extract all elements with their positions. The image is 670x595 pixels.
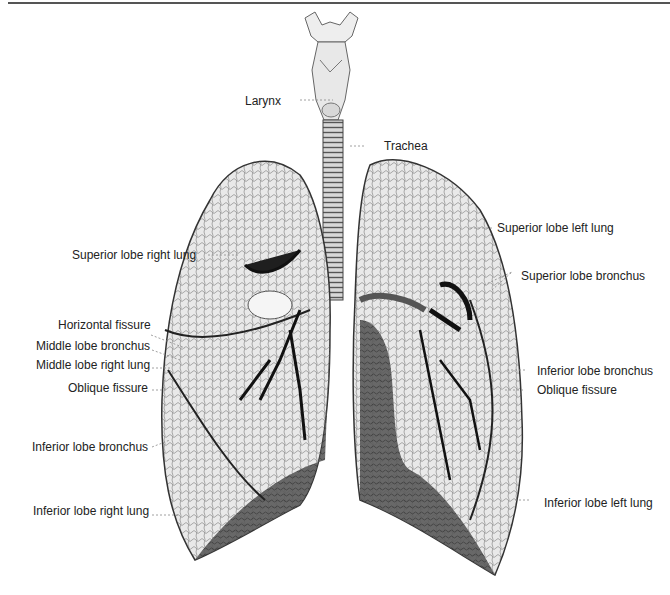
label-inferior-lobe-bronchus-right-side: Inferior lobe bronchus [537, 364, 653, 378]
label-middle-lobe-bronchus: Middle lobe bronchus [36, 339, 150, 353]
label-superior-lobe-right-lung: Superior lobe right lung [72, 248, 196, 262]
label-oblique-fissure-left: Oblique fissure [537, 383, 617, 397]
right-lung-drawing [162, 161, 330, 560]
label-trachea: Trachea [384, 139, 428, 153]
label-superior-lobe-bronchus: Superior lobe bronchus [521, 269, 645, 283]
label-oblique-fissure-right: Oblique fissure [68, 381, 148, 395]
label-middle-lobe-right-lung: Middle lobe right lung [36, 358, 150, 372]
label-inferior-lobe-left-lung: Inferior lobe left lung [544, 496, 653, 510]
label-larynx: Larynx [245, 94, 281, 108]
label-inferior-lobe-bronchus-left-side: Inferior lobe bronchus [32, 440, 148, 454]
larynx-drawing [305, 12, 358, 120]
label-horizontal-fissure: Horizontal fissure [58, 318, 151, 332]
label-inferior-lobe-right-lung: Inferior lobe right lung [33, 504, 149, 518]
label-superior-lobe-left-lung: Superior lobe left lung [497, 221, 614, 235]
